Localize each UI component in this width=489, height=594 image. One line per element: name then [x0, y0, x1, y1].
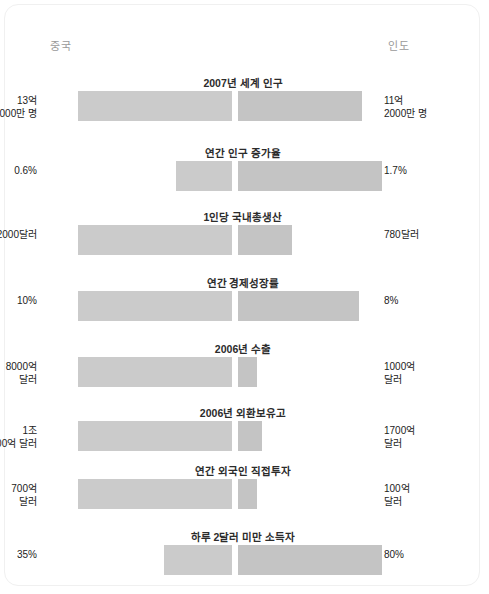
metric-title: 하루 2달러 미만 소득자 — [5, 529, 481, 544]
bar-pair: 0.6%1.7% — [5, 161, 481, 193]
bar-china — [78, 91, 232, 121]
bar-pair: 13억 1000만 명11억 2000만 명 — [5, 91, 481, 123]
value-label-china: 10% — [0, 294, 37, 307]
bar-india — [238, 291, 359, 321]
bar-china — [78, 421, 232, 451]
column-header-china: 중국 — [50, 37, 71, 53]
value-label-china: 35% — [0, 548, 37, 561]
value-label-india: 1.7% — [384, 164, 489, 177]
bar-pair: 35%80% — [5, 545, 481, 577]
bar-india — [238, 161, 382, 191]
bar-india — [238, 545, 382, 575]
bar-pair: 2000달러780달러 — [5, 225, 481, 257]
metric-title: 1인당 국내총생산 — [5, 209, 481, 224]
bar-china — [176, 161, 232, 191]
value-label-india: 1000억 달러 — [384, 360, 489, 386]
bar-china — [164, 545, 232, 575]
bar-china — [78, 357, 232, 387]
value-label-india: 11억 2000만 명 — [384, 94, 489, 120]
value-label-india: 780달러 — [384, 228, 489, 241]
metric-title: 연간 외국인 직접투자 — [5, 463, 481, 478]
metric-title: 2006년 외환보유고 — [5, 405, 481, 420]
bar-pair: 1조 500억 달러1700억 달러 — [5, 421, 481, 453]
bar-pair: 8000억 달러1000억 달러 — [5, 357, 481, 389]
value-label-china: 700억 달러 — [0, 482, 37, 508]
bar-china — [78, 291, 232, 321]
bar-pair: 700억 달러100억 달러 — [5, 479, 481, 511]
bar-india — [238, 225, 292, 255]
bar-india — [238, 421, 262, 451]
metric-title: 연간 인구 증가율 — [5, 145, 481, 160]
value-label-india: 100억 달러 — [384, 482, 489, 508]
bar-china — [78, 479, 232, 509]
value-label-india: 80% — [384, 548, 489, 561]
bar-india — [238, 479, 257, 509]
column-header-india: 인도 — [388, 37, 409, 53]
value-label-india: 8% — [384, 294, 489, 307]
bar-pair: 10%8% — [5, 291, 481, 323]
bar-india — [238, 357, 257, 387]
value-label-china: 2000달러 — [0, 228, 37, 241]
value-label-china: 0.6% — [0, 164, 37, 177]
metric-title: 2006년 수출 — [5, 341, 481, 356]
metric-title: 2007년 세계 인구 — [5, 75, 481, 90]
metric-title: 연간 경제성장률 — [5, 275, 481, 290]
value-label-india: 1700억 달러 — [384, 424, 489, 450]
value-label-china: 1조 500억 달러 — [0, 424, 37, 450]
bar-india — [238, 91, 362, 121]
comparison-infographic-card: 중국 인도 2007년 세계 인구13억 1000만 명11억 2000만 명연… — [4, 4, 480, 586]
bar-china — [78, 225, 232, 255]
value-label-china: 8000억 달러 — [0, 360, 37, 386]
value-label-china: 13억 1000만 명 — [0, 94, 37, 120]
